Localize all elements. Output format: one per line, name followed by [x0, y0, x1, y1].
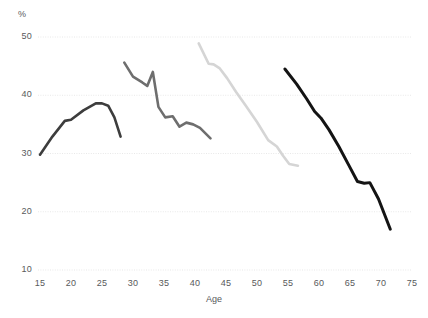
y-axis-tick-label: 50: [10, 31, 32, 41]
x-axis-tick-label: 70: [369, 278, 393, 288]
x-axis-tick-label: 45: [214, 278, 238, 288]
series-line: [40, 103, 121, 154]
x-axis-tick-label: 65: [338, 278, 362, 288]
y-axis-tick-label: 30: [10, 148, 32, 158]
series-lines: [40, 43, 390, 229]
x-axis-tick-label: 40: [183, 278, 207, 288]
series-line: [199, 43, 298, 165]
x-axis-tick-label: 55: [276, 278, 300, 288]
x-axis-tick-label: 30: [121, 278, 145, 288]
x-axis-tick-label: 75: [400, 278, 424, 288]
y-axis-tick-label: 40: [10, 89, 32, 99]
x-axis-tick-label: 25: [90, 278, 114, 288]
y-axis-tick-label: 10: [10, 264, 32, 274]
x-axis-tick-label: 20: [59, 278, 83, 288]
x-axis-tick-label: 60: [307, 278, 331, 288]
gridlines: [38, 37, 412, 270]
x-axis-tick-label: 50: [245, 278, 269, 288]
x-axis-title: Age: [0, 294, 428, 304]
y-axis-tick-label: 20: [10, 206, 32, 216]
line-chart: % 1020304050 15202530354045505560657075 …: [0, 0, 428, 318]
series-line: [285, 69, 390, 229]
x-axis-tick-label: 15: [28, 278, 52, 288]
x-axis-tick-label: 35: [152, 278, 176, 288]
plot-area: [0, 0, 428, 318]
series-line: [124, 63, 210, 139]
